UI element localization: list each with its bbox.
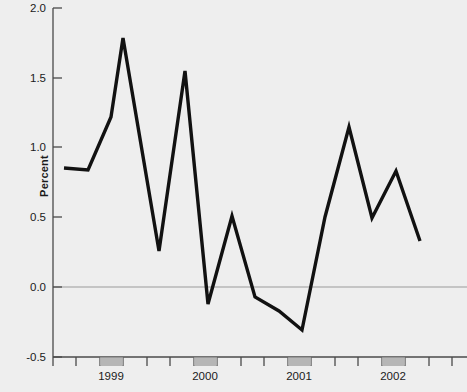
y-tick-label-2-0: 2.0	[2, 2, 46, 14]
year-band-2002	[382, 358, 405, 366]
x-axis-year-bands	[100, 358, 405, 366]
y-tick-label-1-0: 1.0	[2, 141, 46, 153]
chart-figure: Percent 2.0 1.5 1.0 0.5 0.0 -0.5 1999 20…	[0, 0, 467, 392]
y-tick-label-0-0: 0.0	[2, 281, 46, 293]
y-tick-label-0-5: 0.5	[2, 211, 46, 223]
year-band-1999	[100, 358, 123, 366]
x-tick-label-2001: 2001	[269, 370, 329, 382]
data-series-line	[64, 38, 420, 330]
x-tick-label-2000: 2000	[175, 370, 235, 382]
figure-caption-clipped	[4, 384, 304, 392]
x-tick-label-2002: 2002	[363, 370, 423, 382]
y-tick-label-neg-0-5: -0.5	[2, 351, 46, 363]
year-band-2001	[288, 358, 311, 366]
year-band-2000	[194, 358, 217, 366]
chart-plot-area	[0, 0, 467, 392]
x-tick-label-1999: 1999	[81, 370, 141, 382]
y-tick-label-1-5: 1.5	[2, 72, 46, 84]
y-axis-ticks	[53, 8, 62, 357]
